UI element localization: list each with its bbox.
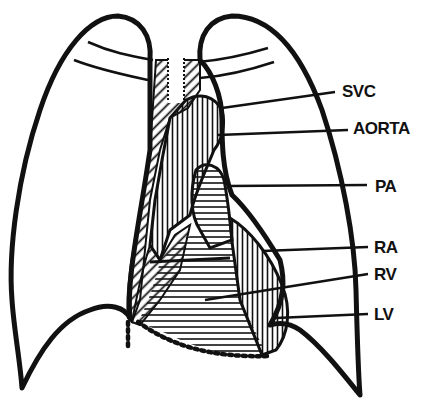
- pa-leader-line: [228, 185, 367, 186]
- diagram-drawing: [0, 0, 423, 409]
- label-aorta: AORTA: [353, 120, 410, 137]
- label-svc: SVC: [342, 83, 375, 100]
- chest-heart-diagram: SVC AORTA PA RA RV LV: [0, 0, 423, 409]
- label-ra: RA: [374, 239, 398, 256]
- label-pa: PA: [375, 178, 396, 195]
- right-lung-outline: [11, 16, 153, 388]
- label-lv: LV: [374, 306, 393, 323]
- label-rv: RV: [374, 266, 396, 283]
